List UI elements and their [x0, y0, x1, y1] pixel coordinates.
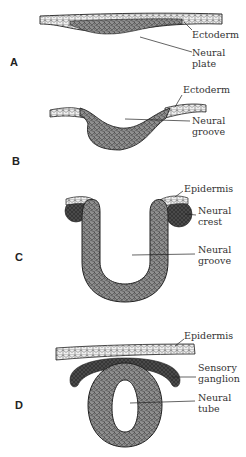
stage-b-figure	[50, 95, 206, 150]
label-epidermis-c: Epidermis	[184, 183, 233, 194]
stage-letter-a: A	[10, 56, 18, 68]
label-neural-tube: Neural tube	[198, 392, 231, 414]
stage-a-neural-plate	[70, 19, 182, 34]
label-neural-plate: Neural plate	[192, 47, 225, 69]
stage-b-neural-groove	[80, 108, 170, 150]
stage-d-epidermis	[56, 344, 195, 360]
label-neural-groove-c: Neural groove	[198, 244, 231, 266]
label-epidermis-d: Epidermis	[184, 330, 233, 341]
stage-letter-c: C	[15, 251, 23, 263]
stage-c-figure	[65, 191, 196, 302]
label-ectoderm-b: Ectoderm	[183, 84, 230, 95]
label-neural-crest: Neural crest	[198, 205, 231, 227]
stage-c-neural-groove	[82, 200, 168, 303]
stage-letter-d: D	[15, 399, 23, 411]
label-sensory-ganglion: Sensory ganglion	[198, 362, 240, 384]
stage-letter-b: B	[12, 155, 20, 167]
label-ectoderm-a: Ectoderm	[192, 29, 239, 40]
stage-d-figure	[56, 339, 196, 447]
stage-d-neural-tube	[88, 363, 162, 447]
label-neural-groove-b: Neural groove	[192, 115, 225, 137]
